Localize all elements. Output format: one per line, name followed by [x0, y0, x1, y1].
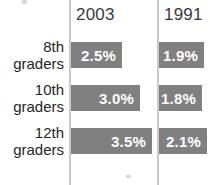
bar-2003: 3.5% — [71, 128, 152, 154]
chart-row: 8th graders 2.5% 1.9% — [0, 42, 210, 84]
category-label: 12th graders — [0, 124, 64, 158]
bar-1991: 1.8% — [159, 85, 202, 111]
chart-row: 12th graders 3.5% 2.1% — [0, 128, 210, 170]
bar-chart: 2003 1991 8th graders 2.5% 1.9% 10th gra… — [0, 0, 210, 185]
column-header-1991: 1991 — [164, 5, 203, 25]
chart-row: 10th graders 3.0% 1.8% — [0, 85, 210, 127]
category-label-line1: 12th — [0, 124, 64, 141]
bar-2003: 3.0% — [71, 85, 140, 111]
bar-value-1991: 1.9% — [163, 47, 204, 64]
scan-artifact-bottom — [126, 175, 131, 178]
category-label-line2: graders — [0, 55, 64, 72]
bar-value-1991: 1.8% — [161, 90, 202, 107]
bar-value-1991: 2.1% — [166, 133, 207, 150]
category-label: 10th graders — [0, 81, 64, 115]
bar-1991: 2.1% — [159, 128, 207, 154]
column-header-2003: 2003 — [76, 5, 115, 25]
category-label: 8th graders — [0, 38, 64, 72]
category-label-line1: 10th — [0, 81, 64, 98]
bar-value-2003: 3.5% — [111, 133, 152, 150]
bar-value-2003: 3.0% — [99, 90, 140, 107]
bar-1991: 1.9% — [159, 42, 204, 68]
category-label-line1: 8th — [0, 38, 64, 55]
scan-artifact-top — [22, 0, 27, 4]
category-label-line2: graders — [0, 98, 64, 115]
bar-value-2003: 2.5% — [81, 47, 122, 64]
bar-2003: 2.5% — [71, 42, 122, 68]
category-label-line2: graders — [0, 141, 64, 158]
